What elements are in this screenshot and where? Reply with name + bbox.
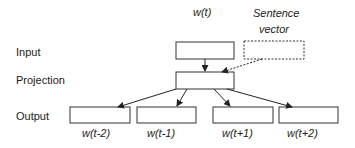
projection-to-output-arrow-3 (214, 89, 230, 106)
output-label-t-plus-1: w(t+1) (222, 127, 253, 139)
projection-box (176, 72, 234, 89)
projection-to-output-arrow-2 (177, 89, 187, 106)
output-box-t-plus-1 (213, 107, 273, 123)
diagram-canvas: Input Projection Output w(t) Sentence ve… (0, 0, 355, 148)
sentence-to-projection-arrow (222, 59, 262, 72)
input-box (176, 42, 234, 59)
output-box-t-plus-2 (279, 107, 338, 123)
output-label-t-minus-1: w(t-1) (147, 127, 175, 139)
sentence-vector-box (244, 41, 304, 59)
input-word-label: w(t) (193, 6, 212, 18)
sentence-vector-label-line2: vector (259, 23, 290, 35)
row-label-output: Output (16, 110, 49, 122)
row-label-input: Input (16, 46, 40, 58)
sentence-vector-label-line1: Sentence (253, 7, 299, 19)
output-box-t-minus-2 (70, 107, 130, 123)
output-label-t-plus-2: w(t+2) (287, 127, 318, 139)
output-label-t-minus-2: w(t-2) (82, 127, 110, 139)
projection-to-output-arrow-4 (227, 89, 292, 107)
output-box-t-minus-1 (137, 107, 196, 123)
projection-to-output-arrow-1 (118, 89, 176, 107)
row-label-projection: Projection (16, 74, 65, 86)
